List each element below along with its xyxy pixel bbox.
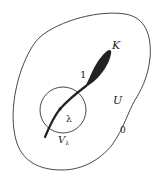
point-lambda (58, 107, 61, 110)
label-v: Vλ (58, 134, 69, 146)
label-k: K (111, 39, 121, 52)
neighborhood-circle (40, 87, 86, 133)
label-zero: 0 (120, 125, 126, 135)
region-u-boundary (13, 13, 150, 170)
compact-set-k (84, 50, 111, 88)
label-v-subscript: λ (65, 139, 69, 146)
diagram-canvas: K 1 λ Vλ U 0 (0, 0, 160, 184)
label-one: 1 (80, 69, 86, 80)
label-u: U (113, 94, 123, 107)
label-lambda: λ (66, 114, 72, 124)
